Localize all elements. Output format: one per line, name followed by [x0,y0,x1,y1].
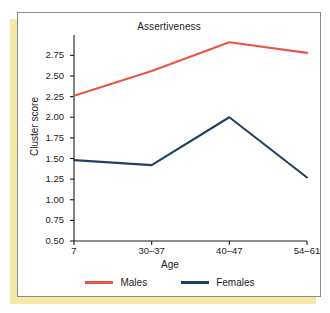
x-tick-label: 54–61 [272,245,330,256]
y-tick-label: 1.25 [28,173,64,184]
y-tick-label: 0.75 [28,214,64,225]
legend-label: Males [120,277,147,288]
y-tick-label: 1.50 [28,153,64,164]
x-tick-label: 30–37 [117,245,187,256]
x-tick-label: 7 [39,245,109,256]
figure-root: Assertiveness Cluster score Age 0.500.75… [0,0,330,313]
legend-item: Males [85,277,147,288]
y-tick-label: 1.75 [28,132,64,143]
plot-area: Cluster score Age 0.500.751.001.251.501.… [18,13,322,298]
legend-item: Females [181,277,254,288]
chart-panel: Assertiveness Cluster score Age 0.500.75… [17,12,321,297]
y-tick-label: 1.00 [28,194,64,205]
y-tick-label: 2.25 [28,91,64,102]
y-tick-label: 2.75 [28,49,64,60]
legend-line-swatch [85,281,113,284]
legend-label: Females [216,277,254,288]
y-tick-label: 2.50 [28,70,64,81]
chart-legend: MalesFemales [18,277,322,288]
x-tick-label: 40–47 [194,245,264,256]
y-tick-label: 2.00 [28,111,64,122]
legend-line-swatch [181,281,209,284]
